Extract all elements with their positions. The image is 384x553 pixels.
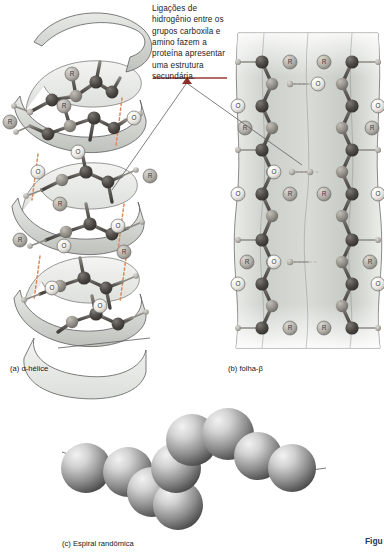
svg-text:R: R xyxy=(322,324,327,331)
atom-O: O xyxy=(371,99,384,113)
svg-text:O: O xyxy=(316,80,321,87)
atom-R: R xyxy=(57,99,71,113)
svg-text:O: O xyxy=(236,280,241,287)
atom-R: R xyxy=(363,255,377,269)
figure-illustration: R R R R R R R O O O xyxy=(0,0,384,553)
svg-text:O: O xyxy=(62,242,67,249)
atom-R: R xyxy=(3,115,17,129)
panel-label-a: (a) α-hélice xyxy=(10,364,48,373)
alpha-helix-illustration: R R R R R R R O O O xyxy=(3,13,157,399)
svg-text:R: R xyxy=(18,236,23,243)
atom-O: O xyxy=(45,281,59,295)
svg-text:R: R xyxy=(370,124,375,131)
coil-sphere-group xyxy=(61,408,316,530)
atom-O: O xyxy=(311,77,325,91)
atom-R: R xyxy=(365,121,379,135)
svg-text:R: R xyxy=(245,258,250,265)
beta-sheet-illustration: R R R R R R R R R R xyxy=(231,33,384,348)
svg-text:O: O xyxy=(376,190,381,197)
atom-O: O xyxy=(57,239,71,253)
svg-text:R: R xyxy=(58,200,63,207)
atom-O: O xyxy=(31,165,45,179)
panel-label-c: (c) Espiral randômica xyxy=(62,539,134,548)
svg-text:R: R xyxy=(368,258,373,265)
svg-text:O: O xyxy=(236,190,241,197)
atom-R: R xyxy=(13,233,27,247)
svg-text:O: O xyxy=(50,284,55,291)
atom-R: R xyxy=(65,67,79,81)
svg-text:O: O xyxy=(272,168,277,175)
atom-O: O xyxy=(231,187,245,201)
figure-reference: Figu xyxy=(365,536,384,546)
protein-secondary-structure-figure: R R R R R R R O O O xyxy=(0,0,384,553)
atom-R: R xyxy=(143,169,157,183)
atom-R: R xyxy=(53,197,67,211)
atom-O: O xyxy=(371,277,384,291)
atom-O: O xyxy=(111,219,125,233)
svg-text:O: O xyxy=(236,102,241,109)
atom-R: R xyxy=(240,255,254,269)
atom-O: O xyxy=(267,255,281,269)
annotation-caption: Ligações de hidrogênio entre os grupos c… xyxy=(152,3,238,82)
atom-R: R xyxy=(283,187,297,201)
atom-R: R xyxy=(317,321,331,335)
svg-text:R: R xyxy=(62,102,67,109)
atom-R: R xyxy=(317,187,331,201)
atom-O: O xyxy=(127,111,141,125)
random-coil-illustration xyxy=(61,408,326,530)
atom-R: R xyxy=(317,55,331,69)
svg-text:O: O xyxy=(132,114,137,121)
svg-text:O: O xyxy=(76,148,81,155)
atom-O: O xyxy=(93,299,107,313)
atom-O: O xyxy=(231,99,245,113)
svg-text:O: O xyxy=(98,302,103,309)
svg-text:R: R xyxy=(288,58,293,65)
svg-text:R: R xyxy=(288,324,293,331)
svg-text:O: O xyxy=(116,222,121,229)
svg-text:O: O xyxy=(272,258,277,265)
atom-O: O xyxy=(71,145,85,159)
atom-O: O xyxy=(231,277,245,291)
svg-text:R: R xyxy=(148,172,153,179)
svg-text:O: O xyxy=(376,102,381,109)
atom-R: R xyxy=(117,245,131,259)
svg-text:R: R xyxy=(8,118,13,125)
svg-text:R: R xyxy=(122,248,127,255)
helix-ribbon-front xyxy=(12,96,146,347)
atom-R: R xyxy=(283,55,297,69)
svg-text:R: R xyxy=(322,190,327,197)
svg-text:R: R xyxy=(70,70,75,77)
atom-R: R xyxy=(283,321,297,335)
svg-text:O: O xyxy=(36,168,41,175)
svg-text:O: O xyxy=(376,280,381,287)
atom-O: O xyxy=(267,165,281,179)
svg-text:R: R xyxy=(322,58,327,65)
svg-text:R: R xyxy=(288,190,293,197)
panel-label-b: (b) folha-β xyxy=(228,364,263,373)
atom-O: O xyxy=(371,187,384,201)
